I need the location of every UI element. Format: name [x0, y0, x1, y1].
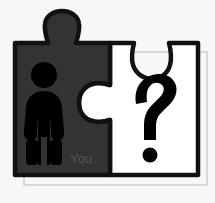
question-mark-dot	[143, 148, 158, 163]
puzzle-diagram-canvas: You	[0, 0, 215, 203]
person-head	[31, 62, 57, 88]
you-label: You	[70, 151, 93, 166]
person-leg-left	[26, 140, 38, 165]
person-leg-right	[50, 140, 62, 165]
puzzle-illustration: You	[0, 0, 215, 203]
